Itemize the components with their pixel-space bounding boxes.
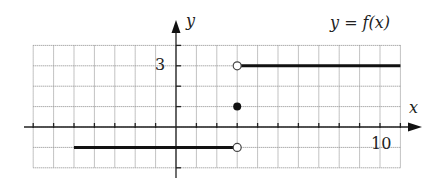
open-circle-icon xyxy=(233,143,241,151)
function-label: y = f(x) xyxy=(329,13,390,32)
grid xyxy=(33,45,400,167)
x-axis-label: x xyxy=(409,98,418,117)
filled-dot-icon xyxy=(233,103,241,111)
piecewise-graph: y x 3 10 y = f(x) xyxy=(0,0,439,181)
y-axis-label: y xyxy=(185,11,196,30)
x-axis-arrow-icon xyxy=(408,123,422,132)
y-tick-label-3: 3 xyxy=(155,55,165,74)
axes xyxy=(24,20,422,178)
open-circle-icon xyxy=(233,62,241,70)
y-axis-arrow-icon xyxy=(172,20,181,33)
x-tick-label-10: 10 xyxy=(371,134,391,153)
